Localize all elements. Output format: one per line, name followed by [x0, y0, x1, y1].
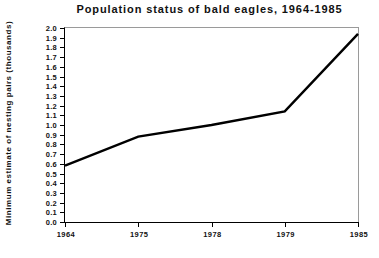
x-axis-tick-label: 1979 [277, 230, 296, 239]
y-axis-tick-label: 2.0 [46, 24, 57, 33]
y-axis-tick: 1.8 [60, 47, 65, 48]
y-axis-tick-label: 1.3 [46, 92, 57, 101]
x-axis-tick: 1975 [138, 222, 139, 227]
x-axis-tick-label: 1975 [130, 230, 149, 239]
y-axis-tick: 1.2 [60, 106, 65, 107]
y-axis-tick-label: 0.4 [46, 179, 57, 188]
x-axis-tick-label: 1978 [203, 230, 222, 239]
y-axis-label-container: Minimum estimate of nesting pairs (thous… [0, 20, 16, 225]
y-axis-tick-label: 0.0 [46, 218, 57, 227]
y-axis-tick-label: 1.1 [46, 111, 57, 120]
y-axis-tick: 0.9 [60, 135, 65, 136]
y-axis-tick-label: 1.4 [46, 82, 57, 91]
series-polyline [65, 34, 358, 166]
y-axis-tick: 0.2 [60, 203, 65, 204]
y-axis-tick-label: 1.9 [46, 34, 57, 43]
y-axis-tick: 0.7 [60, 154, 65, 155]
x-axis-tick: 1985 [358, 222, 359, 227]
y-axis-tick-label: 1.7 [46, 53, 57, 62]
y-axis-tick-label: 0.9 [46, 131, 57, 140]
y-axis-tick-label: 0.2 [46, 199, 57, 208]
y-axis-tick: 0.6 [60, 164, 65, 165]
y-axis-tick-label: 0.6 [46, 160, 57, 169]
y-axis-tick: 0.4 [60, 183, 65, 184]
y-axis-tick-label: 0.8 [46, 140, 57, 149]
y-axis-tick: 1.0 [60, 125, 65, 126]
y-axis-label: Minimum estimate of nesting pairs (thous… [4, 20, 13, 224]
y-axis-tick: 0.5 [60, 174, 65, 175]
y-axis-tick: 1.1 [60, 115, 65, 116]
x-axis-tick: 1964 [65, 222, 66, 227]
y-axis-tick: 2.0 [60, 28, 65, 29]
y-axis-tick-label: 1.0 [46, 121, 57, 130]
y-axis-tick: 1.7 [60, 57, 65, 58]
y-axis-tick-label: 1.5 [46, 73, 57, 82]
y-axis-tick-label: 0.1 [46, 208, 57, 217]
y-axis-tick-label: 1.6 [46, 63, 57, 72]
y-axis-tick-label: 1.8 [46, 43, 57, 52]
x-axis-tick-label: 1964 [57, 230, 76, 239]
y-axis-tick: 1.9 [60, 38, 65, 39]
chart-title: Population status of bald eagles, 1964-1… [40, 2, 379, 16]
y-axis-tick-label: 0.5 [46, 170, 57, 179]
bald-eagle-population-chart: Population status of bald eagles, 1964-1… [0, 0, 379, 258]
x-axis-tick: 1978 [212, 222, 213, 227]
y-axis-tick: 1.6 [60, 67, 65, 68]
y-axis-tick-label: 0.7 [46, 150, 57, 159]
y-axis-tick-label: 0.3 [46, 189, 57, 198]
y-axis-tick-label: 1.2 [46, 102, 57, 111]
y-axis-tick: 0.1 [60, 212, 65, 213]
y-axis-tick: 1.5 [60, 77, 65, 78]
plot-area: 2.01.91.81.71.61.51.41.31.21.11.00.90.80… [64, 27, 359, 223]
y-axis-tick: 0.3 [60, 193, 65, 194]
y-axis-tick: 0.8 [60, 144, 65, 145]
y-axis-tick: 1.4 [60, 86, 65, 87]
x-axis-tick: 1979 [285, 222, 286, 227]
y-axis-tick: 1.3 [60, 96, 65, 97]
x-axis-tick-label: 1985 [350, 230, 369, 239]
data-series-line [65, 28, 358, 222]
